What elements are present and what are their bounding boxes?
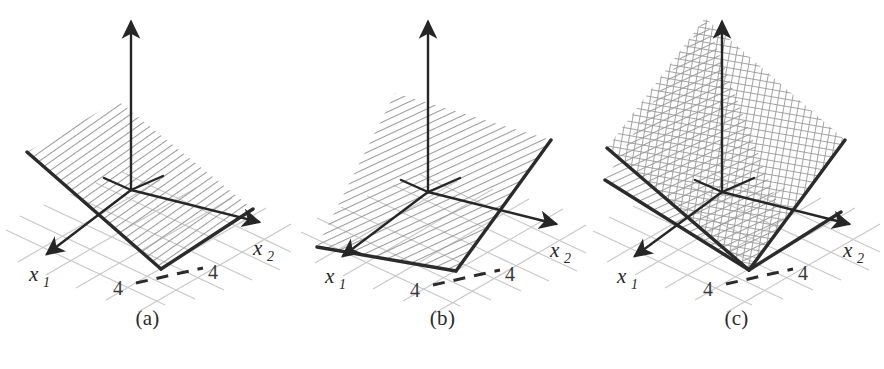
panel-a-diagram: x 1 x 2 4 4	[0, 0, 295, 320]
panel-b-caption: (b)	[295, 306, 590, 331]
svg-text:1: 1	[631, 277, 638, 292]
axis-label-x2: x 2	[842, 238, 864, 266]
panel-a: x 1 x 2 4 4 (a)	[0, 0, 295, 369]
svg-text:1: 1	[339, 277, 346, 292]
panel-b: x 1 x 2 4 4 (b)	[295, 0, 590, 369]
svg-text:1: 1	[43, 275, 50, 290]
axis-label-x1: x 1	[616, 264, 638, 292]
svg-text:x: x	[549, 238, 560, 262]
panel-a-caption: (a)	[0, 306, 295, 331]
hatched-plane	[317, 93, 551, 271]
axis-label-x2: x 2	[549, 238, 571, 266]
panel-c: x 1 x 2 4 4 (c)	[589, 0, 884, 369]
svg-text:x: x	[252, 236, 263, 260]
svg-text:x: x	[616, 264, 627, 288]
svg-text:2: 2	[857, 251, 864, 266]
panel-c-diagram: x 1 x 2 4 4	[589, 0, 884, 320]
tick-label-right: 4	[798, 262, 808, 284]
svg-text:2: 2	[564, 251, 571, 266]
panel-c-caption: (c)	[589, 306, 884, 331]
figure-three-panels: x 1 x 2 4 4 (a)	[0, 0, 884, 369]
svg-text:x: x	[842, 238, 853, 262]
panel-b-diagram: x 1 x 2 4 4	[295, 0, 590, 320]
tick-label-left: 4	[113, 277, 123, 299]
tick-label-right: 4	[505, 263, 515, 285]
svg-text:x: x	[324, 264, 335, 288]
tick-label-left: 4	[703, 278, 713, 300]
svg-text:x: x	[28, 262, 39, 286]
axis-label-x1: x 1	[324, 264, 346, 292]
tick-label-right: 4	[208, 261, 218, 283]
tick-label-left: 4	[410, 279, 420, 301]
axis-label-x1: x 1	[28, 262, 50, 290]
svg-text:2: 2	[267, 249, 274, 264]
